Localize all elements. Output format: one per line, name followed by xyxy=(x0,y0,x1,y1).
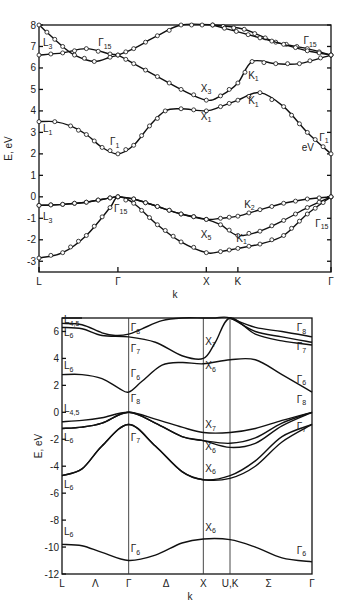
band-curve-band-s xyxy=(62,539,312,562)
symmetry-annotation: X6 xyxy=(205,522,216,535)
symmetry-annotation: X7 xyxy=(205,336,216,349)
symmetry-annotation: Γ8 xyxy=(297,394,307,407)
symmetry-annotation: X6 xyxy=(205,463,216,476)
symmetry-annotation: Γ8 xyxy=(131,393,141,406)
symmetry-annotation: Γ6 xyxy=(131,543,141,556)
symmetry-annotation: L4,5 xyxy=(64,403,79,416)
x-axis-label: k xyxy=(188,591,194,602)
symmetry-annotation: Γ6 xyxy=(297,545,307,558)
symmetry-annotation: Γ7 xyxy=(297,421,307,434)
y-tick-label: -12 xyxy=(45,569,60,580)
k-point-label: X xyxy=(200,578,207,589)
symmetry-annotation: L4,5 xyxy=(64,314,79,327)
direction-label: Δ xyxy=(163,578,170,589)
band-curve-band-p1 xyxy=(62,424,312,480)
y-tick-label: 0 xyxy=(53,407,59,418)
band-structure-plot-bottom: 6420-2-4-6-8-10-12LΓXU,KΓΛΔΣkE, eVL4,5L6… xyxy=(0,0,348,615)
plot-frame xyxy=(62,318,312,574)
k-point-label: L xyxy=(59,578,65,589)
symmetry-annotation: X7 xyxy=(205,419,216,432)
symmetry-annotation: Γ6 xyxy=(297,374,307,387)
band-curve-band-p2 xyxy=(62,424,312,479)
y-tick-label: -2 xyxy=(50,434,59,445)
symmetry-annotation: Γ7 xyxy=(131,432,141,445)
band-curve-band-c1 xyxy=(62,359,312,393)
y-tick-label: -10 xyxy=(45,542,60,553)
band-curve-band-v3 xyxy=(62,412,312,443)
y-tick-label: -6 xyxy=(50,488,59,499)
direction-label: Λ xyxy=(92,578,99,589)
symmetry-annotation: L6 xyxy=(64,526,74,539)
k-point-label: U,K xyxy=(222,578,239,589)
y-tick-label: 6 xyxy=(53,326,59,337)
y-tick-label: 2 xyxy=(53,380,59,391)
symmetry-annotation: L6 xyxy=(64,360,74,373)
symmetry-annotation: Γ8 xyxy=(131,322,141,335)
symmetry-annotation: L6 xyxy=(64,432,74,445)
band-curve-band-c2 xyxy=(62,318,312,359)
y-tick-label: -4 xyxy=(50,461,59,472)
symmetry-annotation: Γ7 xyxy=(297,341,307,354)
direction-label: Σ xyxy=(266,578,272,589)
symmetry-annotation: Γ8 xyxy=(297,322,307,335)
y-tick-label: 4 xyxy=(53,353,59,364)
symmetry-annotation: L6 xyxy=(64,479,74,492)
band-curve-band-c3 xyxy=(62,317,312,342)
k-point-label: Γ xyxy=(309,578,315,589)
y-tick-label: -8 xyxy=(50,515,59,526)
y-axis-label: E, eV xyxy=(33,433,44,458)
symmetry-annotation: Γ7 xyxy=(131,343,141,356)
symmetry-annotation: Γ6 xyxy=(131,368,141,381)
k-point-label: Γ xyxy=(126,578,132,589)
